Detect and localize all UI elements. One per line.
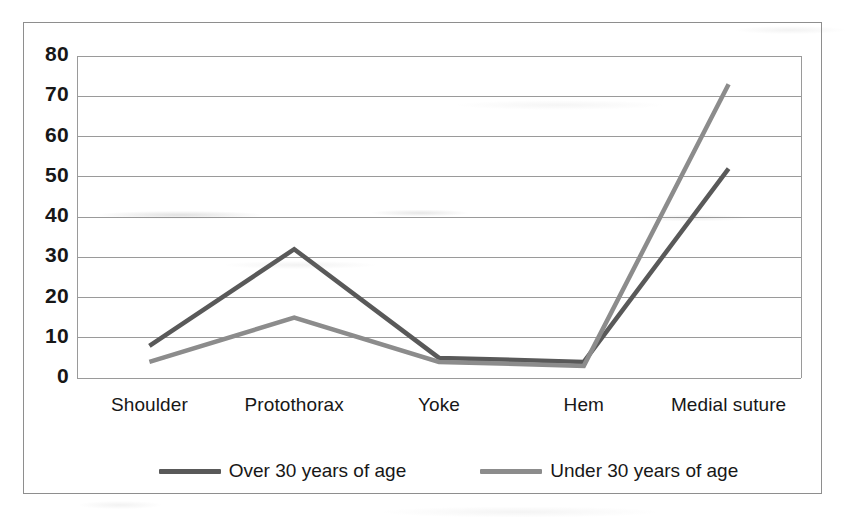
- x-axis-tick-label: Yoke: [418, 394, 460, 416]
- y-axis-tick-label: 80: [9, 42, 69, 66]
- y-axis-tick-label: 20: [9, 284, 69, 308]
- data-series: [149, 84, 728, 366]
- legend-label-over-30: Over 30 years of age: [229, 460, 406, 482]
- legend-item-over-30: Over 30 years of age: [159, 460, 406, 482]
- y-axis-tick-label: 0: [9, 364, 69, 388]
- y-axis-tick-label: 50: [9, 163, 69, 187]
- legend-item-under-30: Under 30 years of age: [480, 460, 738, 482]
- y-axis-tick-label: 40: [9, 203, 69, 227]
- x-axis-tick-label: Shoulder: [111, 394, 188, 416]
- y-axis-tick-label: 30: [9, 243, 69, 267]
- legend-label-under-30: Under 30 years of age: [550, 460, 738, 482]
- chart-frame: 80706050403020100 ShoulderProtothoraxYok…: [23, 22, 822, 494]
- series-line: [149, 169, 728, 362]
- legend-swatch-under-30: [480, 469, 542, 474]
- line-chart-plot: [24, 23, 823, 495]
- x-axis-tick-label: Protothorax: [245, 394, 344, 416]
- x-axis-tick-label: Hem: [564, 394, 604, 416]
- legend-swatch-over-30: [159, 469, 221, 474]
- y-axis-tick-label: 10: [9, 324, 69, 348]
- series-line: [149, 84, 728, 366]
- x-axis-tick-label: Medial suture: [671, 394, 786, 416]
- chart-legend: Over 30 years of age Under 30 years of a…: [24, 460, 849, 482]
- y-axis-tick-label: 70: [9, 82, 69, 106]
- y-axis-tick-label: 60: [9, 123, 69, 147]
